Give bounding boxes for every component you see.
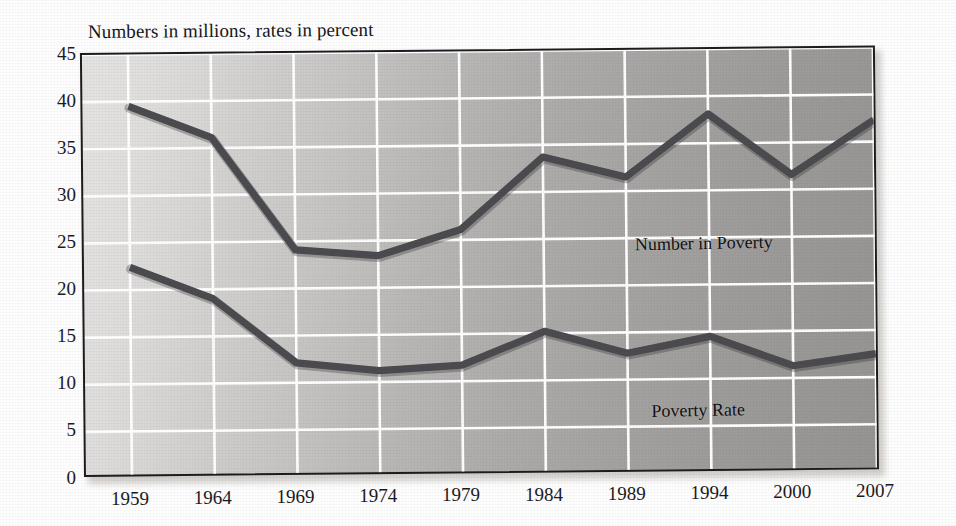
- x-tick-label: 1994: [690, 483, 728, 502]
- x-axis-tick-labels: 1959196419691974197919841989199420002007: [0, 0, 956, 526]
- poverty-chart-figure: Numbers in millions, rates in percent Nu…: [0, 0, 956, 526]
- x-tick-label: 1964: [194, 488, 232, 507]
- x-tick-label: 2000: [773, 482, 811, 501]
- x-tick-label: 1979: [442, 485, 480, 504]
- x-tick-label: 1959: [111, 489, 149, 508]
- x-tick-label: 2007: [856, 481, 894, 500]
- x-tick-label: 1974: [359, 486, 397, 505]
- x-tick-label: 1989: [608, 484, 646, 503]
- x-tick-label: 1984: [525, 485, 563, 504]
- x-tick-label: 1969: [277, 487, 315, 506]
